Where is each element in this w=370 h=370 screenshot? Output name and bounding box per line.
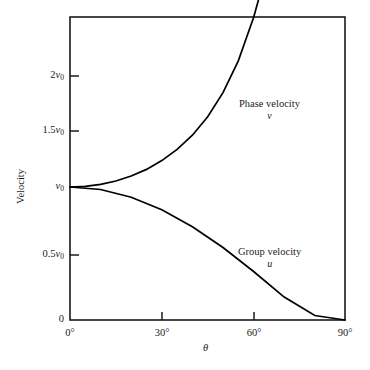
phase-velocity-label: Phase velocity [239, 98, 300, 109]
velocity-dispersion-chart: 2v0 1.5v0 v0 0.5v0 0 0° 30° 60° 90° θ Ve… [0, 0, 370, 370]
plot-frame [70, 17, 345, 320]
x-tick-label-60deg: 60° [238, 328, 270, 339]
y-tick-label-0-5v0: 0.5v0 [22, 249, 64, 260]
group-velocity-label: Group velocity [238, 246, 301, 257]
x-tick-label-30deg: 30° [146, 328, 178, 339]
y-tick-label-2v0: 2v0 [22, 70, 64, 81]
y-tick-label-v0: v0 [22, 181, 64, 192]
x-tick-label-0deg: 0° [54, 328, 86, 339]
group-velocity-annotation: Group velocity u [238, 245, 301, 271]
x-axis-title: θ [203, 343, 208, 354]
y-axis-title: Velocity [16, 169, 27, 204]
y-tick-label-1-5v0: 1.5v0 [22, 125, 64, 136]
phase-velocity-annotation: Phase velocity v [239, 97, 300, 123]
y-tick-label-0: 0 [22, 314, 64, 325]
group-velocity-symbol: u [238, 258, 301, 271]
x-tick-label-90deg: 90° [329, 328, 361, 339]
phase-velocity-symbol: v [239, 110, 300, 123]
